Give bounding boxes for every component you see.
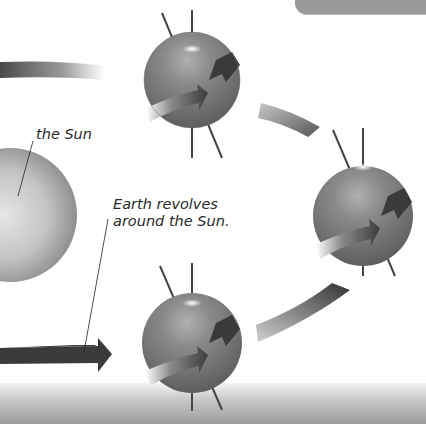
orbit-arc-top-left [0, 62, 105, 81]
revolve-label-line2: around the Sun. [113, 213, 230, 230]
orbit-diagram: the Sun Earth revolves around the Sun. [0, 0, 426, 424]
earth-top [144, 10, 240, 158]
sun-label: the Sun [36, 126, 92, 143]
earth-bottom [142, 263, 242, 411]
revolve-arrow [0, 338, 112, 372]
revolve-label-line1: Earth revolves [113, 196, 218, 213]
orbit-arc-bottom-right [256, 283, 350, 342]
sun [0, 148, 77, 282]
orbit-arc-top-right [258, 103, 320, 137]
earth-right [313, 128, 413, 276]
revolve-leader-line [84, 219, 108, 352]
